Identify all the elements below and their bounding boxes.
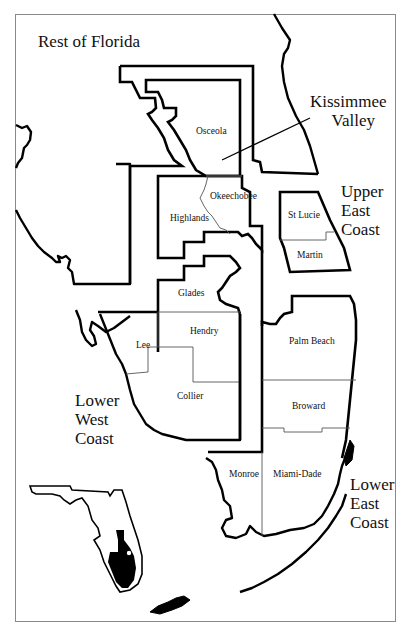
- florida-keys: [240, 494, 346, 592]
- upper-east-coast-boundary: [280, 192, 350, 272]
- hendry-collier-divider: [158, 347, 240, 382]
- upper-east-line3: Coast: [341, 220, 383, 239]
- county-label-hendry: Hendry: [190, 326, 219, 336]
- okeechobee-highlands-divider: [200, 176, 230, 234]
- palm-beach-boundary: [262, 296, 356, 458]
- lower-east-line1: Lower: [350, 475, 394, 494]
- kissimmee-east-boundary: [120, 66, 318, 174]
- kissimmee-pointer-line: [222, 118, 310, 160]
- county-label-palm-beach: Palm Beach: [289, 336, 335, 346]
- gulf-coastline: [16, 164, 130, 284]
- region-label-lower-east-coast: Lower East Coast: [350, 475, 394, 532]
- region-label-lower-west-coast: Lower West Coast: [75, 391, 119, 448]
- lower-west-outer-boundary: [208, 250, 262, 452]
- lower-east-line2: East: [350, 494, 394, 513]
- broward-miami-dade-divider: [262, 428, 350, 432]
- county-label-martin: Martin: [297, 250, 323, 260]
- st-lucie-martin-divider: [280, 232, 334, 240]
- region-label-rest-of-florida: Rest of Florida: [38, 32, 140, 51]
- northwest-coastline: [16, 125, 31, 168]
- county-label-collier: Collier: [177, 391, 203, 401]
- county-label-lee: Lee: [136, 340, 150, 350]
- region-label-upper-east-coast: Upper East Coast: [341, 182, 383, 239]
- county-label-osceola: Osceola: [196, 126, 227, 136]
- county-label-highlands: Highlands: [170, 213, 209, 223]
- lower-east-line3: Coast: [350, 513, 394, 532]
- lower-keys: [150, 596, 190, 614]
- lower-west-line2: West: [75, 410, 119, 429]
- county-label-glades: Glades: [178, 288, 204, 298]
- county-label-okeechobee: Okeechobee: [210, 191, 257, 201]
- region-label-kissimmee-valley: Kissimmee Valley: [310, 92, 387, 130]
- charlotte-harbor-coast: [76, 310, 130, 346]
- lower-west-coastline: [100, 314, 240, 440]
- kissimmee-line2: Valley: [310, 111, 387, 130]
- lower-west-line3: Coast: [75, 429, 119, 448]
- county-label-monroe: Monroe: [229, 469, 259, 479]
- upper-east-line1: Upper: [341, 182, 383, 201]
- county-label-broward: Broward: [292, 401, 325, 411]
- county-label-st-lucie: St Lucie: [288, 210, 320, 220]
- upper-east-line2: East: [341, 201, 383, 220]
- florida-inset-map: [30, 486, 142, 592]
- kissimmee-line1: Kissimmee: [310, 92, 387, 111]
- lower-west-line1: Lower: [75, 391, 119, 410]
- glades-boundary: [158, 256, 240, 352]
- inset-lake-okeechobee: [127, 551, 131, 555]
- county-label-miami-dade: Miami-Dade: [273, 469, 322, 479]
